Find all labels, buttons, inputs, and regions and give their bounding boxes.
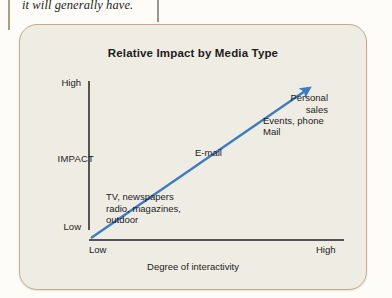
annotation-low-impact-media: TV, newspapers radio, magazines, outdoor xyxy=(106,191,181,226)
x-axis-line xyxy=(89,239,344,241)
page-column-rule xyxy=(157,0,159,22)
y-axis-title: IMPACT xyxy=(58,153,94,165)
page-margin-rule-left xyxy=(8,0,10,30)
x-axis-low-label: Low xyxy=(89,244,106,256)
x-axis-high-label: High xyxy=(316,244,336,256)
y-axis-low-label: Low xyxy=(64,221,81,233)
annotation-personal-sales: Personal sales xyxy=(258,92,328,115)
annotation-email: E-mail xyxy=(195,147,222,159)
x-axis-title: Degree of interactivity xyxy=(20,261,366,273)
annotation-events-phone: Events, phone xyxy=(263,115,324,127)
body-text-fragment: it will generally have. xyxy=(22,0,133,13)
figure-panel: Relative Impact by Media Type High Low I… xyxy=(19,24,367,290)
annotation-mail: Mail xyxy=(263,126,280,138)
y-axis-high-label: High xyxy=(61,77,81,89)
chart-title: Relative Impact by Media Type xyxy=(20,47,366,59)
